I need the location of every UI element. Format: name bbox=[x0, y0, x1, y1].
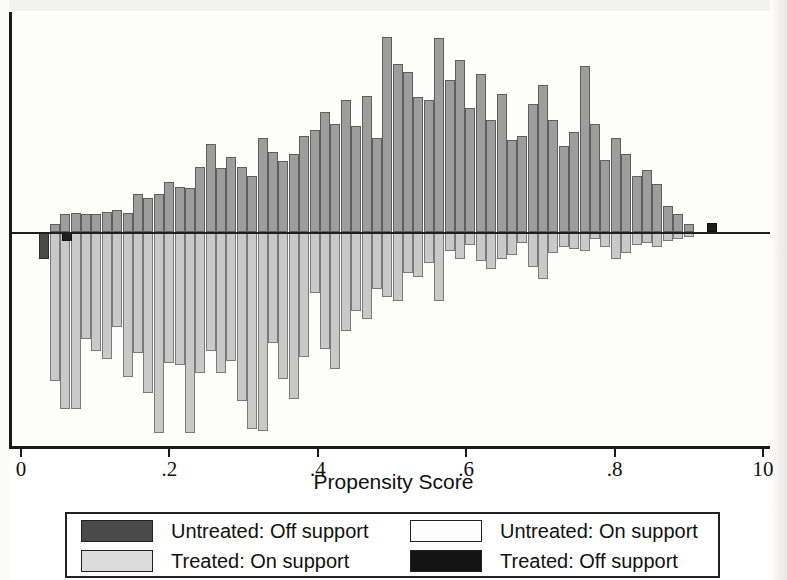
legend-row: Untreated: Off support Untreated: On sup… bbox=[67, 516, 722, 546]
histogram-bar bbox=[528, 104, 538, 232]
histogram-bar bbox=[611, 138, 621, 232]
histogram-bar bbox=[320, 112, 330, 232]
histogram-bar bbox=[289, 154, 299, 232]
histogram-bar bbox=[476, 74, 486, 232]
histogram-bar bbox=[91, 233, 101, 351]
histogram-bar bbox=[50, 224, 60, 232]
histogram-bar bbox=[320, 233, 330, 349]
histogram-bar bbox=[247, 176, 257, 232]
histogram-bar bbox=[362, 233, 372, 319]
histogram-bar bbox=[538, 85, 548, 232]
histogram-bar bbox=[175, 187, 185, 232]
legend-item-treated-off-support[interactable]: Treated: Off support bbox=[402, 550, 722, 573]
legend-item-untreated-on-support[interactable]: Untreated: On support bbox=[402, 520, 722, 543]
histogram-bar bbox=[62, 233, 72, 241]
histogram-bar bbox=[590, 124, 600, 232]
histogram-bar bbox=[445, 80, 455, 232]
histogram-bar bbox=[330, 124, 340, 232]
histogram-bar bbox=[237, 167, 247, 232]
histogram-bar bbox=[289, 233, 299, 399]
histogram-bar bbox=[632, 176, 642, 232]
histogram-bar bbox=[548, 120, 558, 232]
histogram-bar bbox=[164, 182, 174, 232]
histogram-bar bbox=[268, 152, 278, 232]
histogram-bar bbox=[413, 97, 423, 232]
histogram-bar bbox=[102, 212, 112, 232]
histogram-bar bbox=[580, 66, 590, 232]
legend-item-treated-on-support[interactable]: Treated: On support bbox=[67, 550, 402, 573]
histogram-bar bbox=[642, 170, 652, 232]
histogram-bar bbox=[39, 233, 49, 259]
histogram-bar bbox=[413, 233, 423, 277]
histogram-bar bbox=[91, 214, 101, 232]
histogram-bar bbox=[60, 214, 70, 232]
x-axis-tick bbox=[317, 448, 319, 457]
histogram-bar bbox=[123, 233, 133, 377]
histogram-bar bbox=[351, 233, 361, 311]
histogram-bar bbox=[226, 233, 236, 361]
histogram-bar bbox=[362, 96, 372, 232]
histogram-bar bbox=[517, 233, 527, 243]
histogram-bar bbox=[569, 233, 579, 249]
histogram-bar bbox=[569, 132, 579, 232]
histogram-bar bbox=[299, 136, 309, 232]
histogram-bar bbox=[528, 233, 538, 267]
legend-row: Treated: On support Treated: Off support bbox=[67, 546, 722, 576]
histogram-bar bbox=[455, 233, 465, 259]
histogram-bar bbox=[226, 157, 236, 232]
histogram-bar bbox=[538, 233, 548, 279]
histogram-bar bbox=[632, 233, 642, 245]
histogram-plot-area bbox=[11, 12, 770, 448]
histogram-bar bbox=[341, 233, 351, 331]
x-axis-title: Propensity Score bbox=[0, 470, 787, 494]
histogram-bar bbox=[216, 168, 226, 232]
histogram-bar bbox=[216, 233, 226, 373]
histogram-bar bbox=[372, 233, 382, 289]
histogram-bar bbox=[154, 194, 164, 232]
histogram-bar bbox=[175, 233, 185, 365]
histogram-bar bbox=[123, 213, 133, 232]
histogram-bar bbox=[465, 108, 475, 232]
histogram-bar bbox=[133, 194, 143, 232]
legend-swatch-icon bbox=[410, 520, 482, 542]
histogram-bar bbox=[580, 233, 590, 251]
legend-item-untreated-off-support[interactable]: Untreated: Off support bbox=[67, 520, 402, 543]
histogram-bar bbox=[707, 223, 717, 232]
histogram-bar bbox=[164, 233, 174, 363]
histogram-bar bbox=[497, 94, 507, 232]
histogram-bar bbox=[652, 184, 662, 232]
histogram-bar bbox=[663, 206, 673, 232]
histogram-bar bbox=[455, 60, 465, 232]
histogram-bar bbox=[278, 161, 288, 232]
legend-item-label: Untreated: Off support bbox=[171, 520, 369, 543]
histogram-bar bbox=[112, 233, 122, 327]
histogram-bar bbox=[143, 198, 153, 232]
legend-swatch-icon bbox=[81, 520, 153, 542]
histogram-bar bbox=[663, 233, 673, 241]
histogram-bar bbox=[611, 233, 621, 259]
histogram-bar bbox=[268, 233, 278, 343]
histogram-bar bbox=[258, 233, 268, 431]
scan-artifact-top bbox=[0, 0, 787, 11]
histogram-bar bbox=[465, 233, 475, 245]
histogram-bar bbox=[559, 233, 569, 247]
histogram-bar bbox=[351, 126, 361, 232]
x-axis-tick bbox=[465, 448, 467, 457]
histogram-bar bbox=[382, 37, 392, 232]
legend: Untreated: Off support Untreated: On sup… bbox=[65, 512, 720, 578]
histogram-bar bbox=[330, 233, 340, 369]
histogram-bar bbox=[143, 233, 153, 393]
histogram-bar bbox=[206, 233, 216, 351]
histogram-bar bbox=[673, 214, 683, 232]
histogram-bar bbox=[382, 233, 392, 297]
histogram-bar bbox=[112, 210, 122, 232]
histogram-bar bbox=[548, 233, 558, 253]
legend-item-label: Treated: Off support bbox=[500, 550, 678, 573]
histogram-bar bbox=[154, 233, 164, 433]
histogram-bar bbox=[517, 136, 527, 232]
histogram-bar bbox=[341, 100, 351, 232]
histogram-bar bbox=[621, 154, 631, 232]
histogram-bar bbox=[642, 233, 652, 243]
histogram-bar bbox=[185, 188, 195, 232]
histogram-bar bbox=[445, 233, 455, 251]
